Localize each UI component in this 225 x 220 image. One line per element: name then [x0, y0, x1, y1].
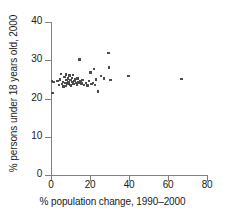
y-axis-title-wrapper: % persons under 18 years old, 2000	[0, 0, 18, 190]
data-point	[76, 84, 78, 86]
data-point	[94, 84, 96, 86]
data-point	[107, 52, 109, 54]
y-tick-label: 30	[16, 53, 42, 64]
data-point	[81, 79, 83, 81]
x-axis-title: % population change, 1990–2000	[0, 196, 225, 207]
x-tick-label: 40	[116, 179, 142, 190]
x-tick-label: 80	[194, 179, 220, 190]
x-tick-label: 0	[38, 179, 64, 190]
data-point	[51, 92, 53, 94]
data-point	[109, 79, 111, 81]
data-point	[88, 80, 90, 82]
data-point	[72, 74, 74, 76]
data-point	[89, 71, 91, 73]
data-point	[52, 81, 54, 83]
x-tick-label: 60	[155, 179, 181, 190]
data-point	[180, 78, 182, 80]
y-tick-label: 10	[16, 130, 42, 141]
data-point	[60, 73, 62, 75]
y-axis-title: % persons under 18 years old, 2000	[8, 1, 19, 187]
data-point	[97, 90, 99, 92]
y-tick-label: 20	[16, 92, 42, 103]
scatter-plot-figure: 010203040 020406080 % population change,…	[0, 0, 225, 220]
data-point	[64, 85, 66, 87]
data-point	[78, 58, 80, 60]
y-tick-label: 40	[16, 15, 42, 26]
data-point	[93, 68, 95, 70]
data-point	[108, 66, 110, 68]
data-point	[71, 77, 73, 79]
plot-data-area	[51, 22, 207, 175]
data-point	[86, 84, 88, 86]
data-point	[103, 77, 105, 79]
data-point	[95, 78, 97, 80]
y-tick-label: 0	[16, 168, 42, 179]
x-tick-label: 20	[77, 179, 103, 190]
data-point	[65, 73, 67, 75]
data-point	[127, 75, 129, 77]
